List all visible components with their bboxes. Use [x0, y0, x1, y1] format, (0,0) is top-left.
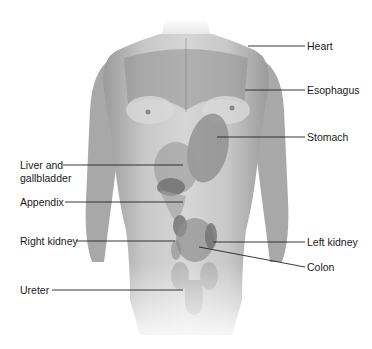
label-left-kidney: Left kidney — [307, 236, 358, 248]
label-ureter: Ureter — [20, 284, 49, 296]
label-heart: Heart — [307, 40, 333, 52]
label-colon: Colon — [307, 261, 334, 273]
label-stomach: Stomach — [307, 131, 348, 143]
label-esophagus: Esophagus — [307, 84, 360, 96]
referred-pain-diagram: Heart Esophagus Stomach Liver and gallbl… — [0, 0, 372, 349]
label-liver-line2: gallbladder — [20, 172, 71, 184]
label-appendix: Appendix — [20, 196, 64, 208]
label-liver-line1: Liver and — [20, 159, 63, 171]
label-right-kidney: Right kidney — [20, 235, 78, 247]
